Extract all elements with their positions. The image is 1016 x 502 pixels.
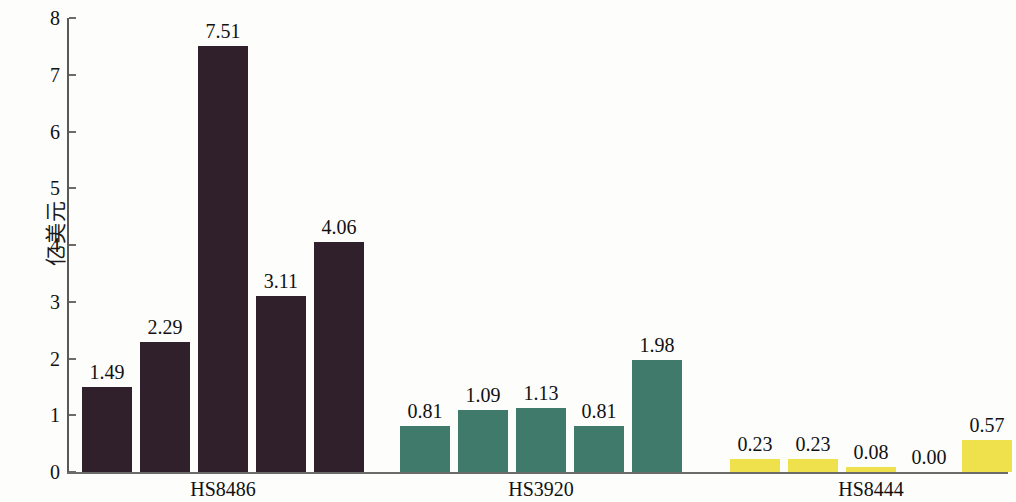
bar-value-HS8486-4: 3.11 bbox=[246, 271, 316, 291]
bar-HS3920-5 bbox=[632, 360, 682, 472]
bar-value-HS8486-1: 1.49 bbox=[72, 362, 142, 382]
bar-HS8486-4 bbox=[256, 296, 306, 472]
bar-HS8486-2 bbox=[140, 342, 190, 472]
y-tick-label-1: 1 bbox=[30, 405, 60, 425]
y-tick-label-5: 5 bbox=[30, 178, 60, 198]
bar-HS3920-1 bbox=[400, 426, 450, 472]
bar-HS8444-5 bbox=[962, 440, 1012, 472]
bar-HS8444-1 bbox=[730, 459, 780, 472]
y-tick-label-2: 2 bbox=[30, 349, 60, 369]
y-tick-label-6: 6 bbox=[30, 122, 60, 142]
bar-value-HS3920-3: 1.13 bbox=[506, 383, 576, 403]
group-label-HS8486: HS8486 bbox=[82, 478, 364, 500]
bar-HS8486-5 bbox=[314, 242, 364, 472]
bar-value-HS8444-5: 0.57 bbox=[952, 415, 1016, 435]
bar-HS3920-3 bbox=[516, 408, 566, 472]
bar-value-HS3920-4: 0.81 bbox=[564, 401, 634, 421]
y-tick-label-8: 8 bbox=[30, 8, 60, 28]
bar-value-HS8486-2: 2.29 bbox=[130, 317, 200, 337]
y-tick-label-4: 4 bbox=[30, 235, 60, 255]
bar-value-HS8486-5: 4.06 bbox=[304, 217, 374, 237]
bar-value-HS8486-3: 7.51 bbox=[188, 21, 258, 41]
group-label-HS3920: HS3920 bbox=[400, 478, 682, 500]
bar-value-HS3920-5: 1.98 bbox=[622, 335, 692, 355]
bar-HS3920-2 bbox=[458, 410, 508, 472]
group-label-HS8444: HS8444 bbox=[730, 478, 1012, 500]
bar-value-HS8444-4: 0.00 bbox=[894, 447, 964, 467]
bar-HS3920-4 bbox=[574, 426, 624, 472]
y-tick-label-7: 7 bbox=[30, 65, 60, 85]
y-tick-label-3: 3 bbox=[30, 292, 60, 312]
x-axis-line bbox=[67, 472, 1008, 474]
bar-HS8444-3 bbox=[846, 467, 896, 472]
y-tick-label-0: 0 bbox=[30, 462, 60, 482]
bar-HS8444-2 bbox=[788, 459, 838, 472]
bar-HS8486-3 bbox=[198, 46, 248, 472]
plot-area: 1.492.297.513.114.060.811.091.130.811.98… bbox=[69, 18, 1008, 472]
bar-HS8486-1 bbox=[82, 387, 132, 472]
